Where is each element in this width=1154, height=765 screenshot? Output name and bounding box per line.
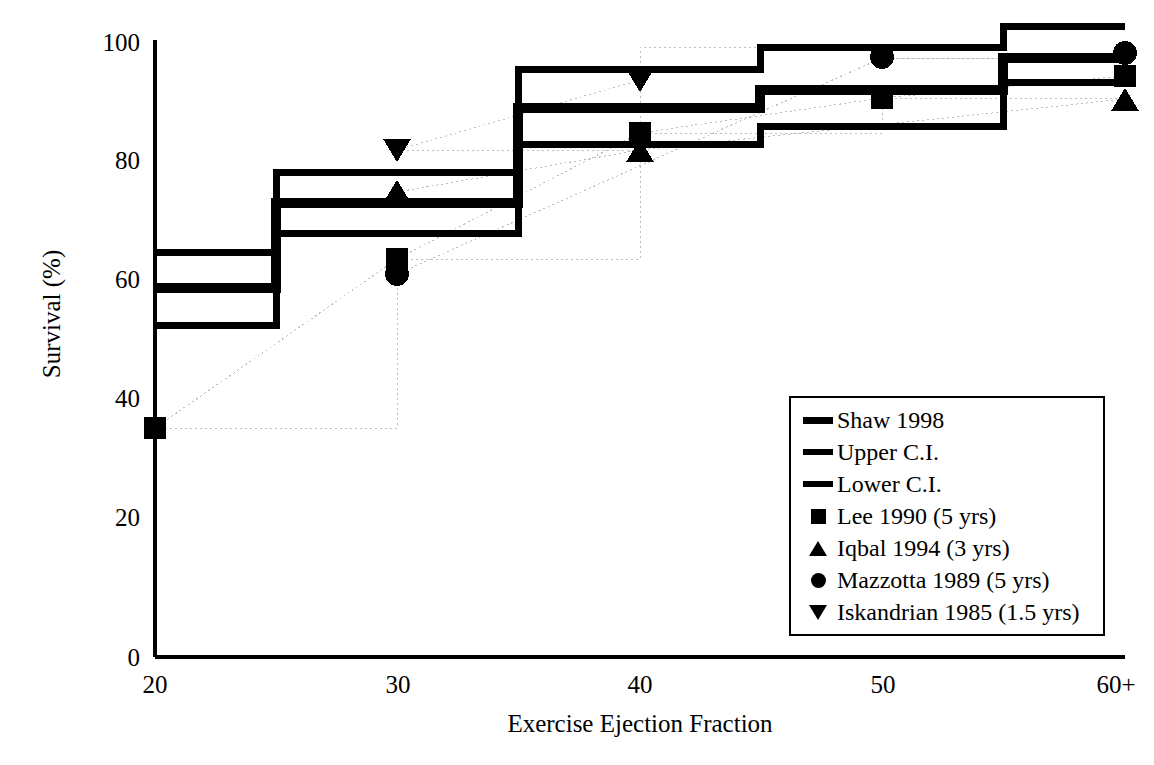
marker-circle xyxy=(385,262,409,286)
legend-item-lower-ci: Lower C.I. xyxy=(791,468,1103,500)
line-thin-icon xyxy=(801,441,835,463)
legend-label: Upper C.I. xyxy=(837,440,939,464)
y-tick-label: 80 xyxy=(58,148,140,173)
legend-item-shaw-1998: Shaw 1998 xyxy=(791,404,1103,436)
y-tick-label: 60 xyxy=(58,267,140,292)
line-thick-icon xyxy=(801,409,835,431)
legend-label: Lee 1990 (5 yrs) xyxy=(837,504,996,528)
marker-square xyxy=(1114,65,1136,87)
y-axis-title-wrap: Survival (%) xyxy=(38,184,66,444)
line-thin-icon xyxy=(801,473,835,495)
marker-triangle-down xyxy=(626,69,654,92)
legend-item-iqbal-1994: Iqbal 1994 (3 yrs) xyxy=(791,532,1103,564)
legend-item-lee-1990: Lee 1990 (5 yrs) xyxy=(791,500,1103,532)
x-axis-title: Exercise Ejection Fraction xyxy=(155,710,1125,738)
legend-item-upper-ci: Upper C.I. xyxy=(791,436,1103,468)
legend-item-mazzotta-1989: Mazzotta 1989 (5 yrs) xyxy=(791,564,1103,596)
legend-label: Shaw 1998 xyxy=(837,408,944,432)
marker-square xyxy=(871,87,893,109)
legend-item-iskandrian-1985: Iskandrian 1985 (1.5 yrs) xyxy=(791,596,1103,628)
circle-marker-icon xyxy=(801,569,835,591)
y-tick-label: 100 xyxy=(58,30,140,55)
marker-circle xyxy=(870,45,894,69)
triangle-down-marker-icon xyxy=(801,601,835,623)
legend-label: Iqbal 1994 (3 yrs) xyxy=(837,536,1010,560)
legend-label: Mazzotta 1989 (5 yrs) xyxy=(837,568,1050,592)
marker-circle xyxy=(1113,41,1137,65)
legend-label: Lower C.I. xyxy=(837,472,942,496)
triangle-up-marker-icon xyxy=(801,537,835,559)
y-tick-label: 0 xyxy=(58,645,140,670)
y-tick-label: 40 xyxy=(58,386,140,411)
x-tick-label: 50 xyxy=(858,672,908,697)
square-marker-icon xyxy=(801,505,835,527)
x-tick-label: 40 xyxy=(615,672,665,697)
chart-legend: Shaw 1998 Upper C.I. Lower C.I. Lee 1990… xyxy=(789,396,1105,636)
marker-triangle-up xyxy=(1111,88,1139,111)
series-markers-mazzotta-1989 xyxy=(385,41,1137,286)
x-tick-label: 60+ xyxy=(1086,672,1146,697)
y-axis-title: Survival (%) xyxy=(38,250,65,378)
marker-triangle-down xyxy=(383,139,411,162)
y-tick-label: 20 xyxy=(58,505,140,530)
legend-label: Iskandrian 1985 (1.5 yrs) xyxy=(837,600,1080,624)
chart-plot-area xyxy=(0,0,1154,765)
marker-triangle-up xyxy=(383,180,411,203)
x-tick-label: 30 xyxy=(373,672,423,697)
survival-chart-figure: 100 80 60 40 20 0 20 30 40 50 60+ Surviv… xyxy=(0,0,1154,765)
x-tick-label: 20 xyxy=(130,672,180,697)
